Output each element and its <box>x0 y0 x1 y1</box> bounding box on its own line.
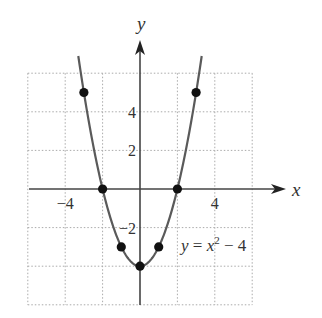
x-axis-label: x <box>291 179 301 200</box>
y-tick-label: −2 <box>119 220 136 237</box>
y-axis-label: y <box>135 13 146 34</box>
y-tick-label: 4 <box>128 104 136 121</box>
data-point <box>79 88 88 97</box>
data-point <box>98 184 107 193</box>
x-tick-label: −4 <box>57 195 74 212</box>
data-point <box>173 184 182 193</box>
x-tick-label: 4 <box>211 195 219 212</box>
equation-label: y = x2 − 4 <box>179 234 247 255</box>
data-point <box>135 262 144 271</box>
data-point <box>192 88 201 97</box>
data-point <box>154 242 163 251</box>
axes <box>29 40 286 305</box>
y-tick-label: 2 <box>128 142 136 159</box>
parabola-plot: x y −4442−2 y = x2 − 4 <box>0 0 322 318</box>
data-point <box>117 242 126 251</box>
tick-labels: −4442−2 <box>57 104 219 237</box>
